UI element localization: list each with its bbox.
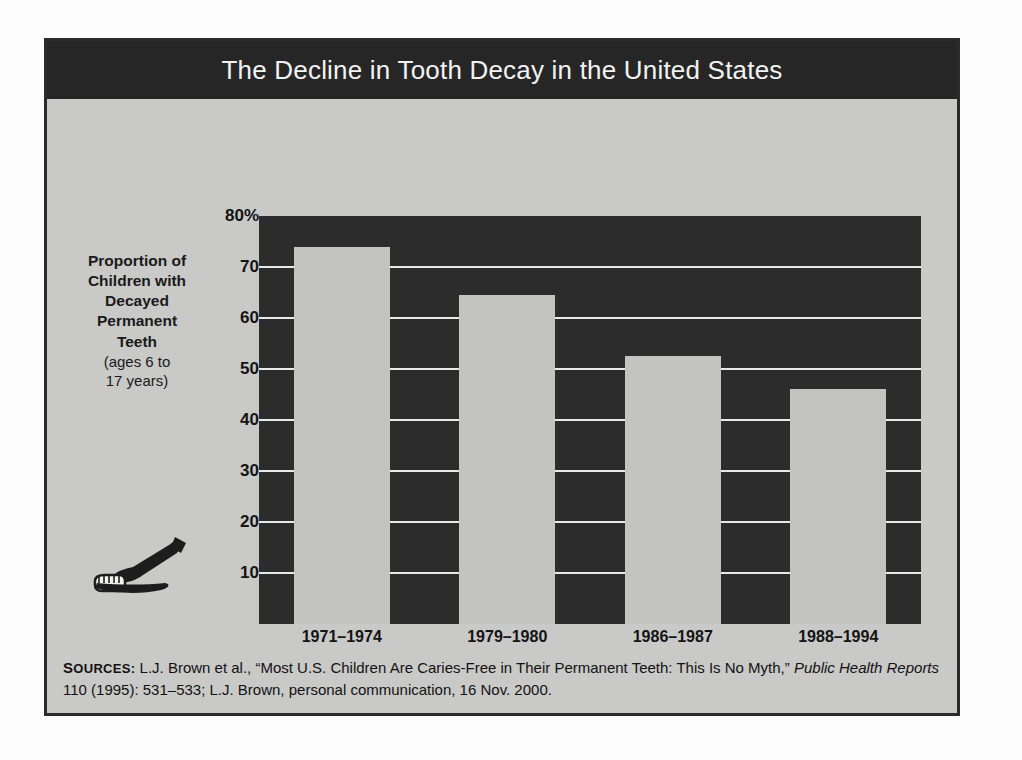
bar (625, 356, 721, 624)
x-tick-label: 1988–1994 (756, 628, 922, 646)
y-axis-label-line-1: Proportion of (57, 251, 217, 271)
plot-area (259, 216, 921, 624)
bar (790, 389, 886, 624)
y-tick-label: 80% (225, 206, 259, 226)
sources-text-part-1: L.J. Brown et al., “Most U.S. Children A… (135, 659, 794, 676)
chart-figure: The Decline in Tooth Decay in the United… (44, 38, 960, 716)
x-tick-label: 1979–1980 (425, 628, 591, 646)
bar (459, 295, 555, 624)
sources-label-cap: S (63, 659, 73, 676)
y-axis-label-line-7: 17 years) (57, 371, 217, 391)
x-tick-label: 1971–1974 (259, 628, 425, 646)
bar (294, 247, 390, 624)
y-tick-label: 10 (240, 563, 259, 583)
sources-label-rest: OURCES (73, 661, 130, 676)
y-axis-label-line-4: Permanent (57, 311, 217, 331)
y-axis-ticks: 80%70605040302010 (197, 99, 259, 661)
x-tick-label: 1986–1987 (590, 628, 756, 646)
y-tick-label: 50 (240, 359, 259, 379)
chart-title: The Decline in Tooth Decay in the United… (221, 55, 782, 86)
y-axis-label-line-5: Teeth (57, 332, 217, 352)
y-tick-label: 20 (240, 512, 259, 532)
sources-journal-title: Public Health Reports (794, 659, 939, 676)
chart-body: Proportion of Children with Decayed Perm… (47, 99, 957, 661)
y-axis-label-line-6: (ages 6 to (57, 352, 217, 372)
y-tick-label: 30 (240, 461, 259, 481)
y-axis-label: Proportion of Children with Decayed Perm… (57, 251, 217, 391)
y-tick-label: 70 (240, 257, 259, 277)
sources-label: SOURCES: (63, 661, 135, 676)
sources-footnote: SOURCES: L.J. Brown et al., “Most U.S. C… (47, 645, 957, 713)
toothpaste-and-toothbrush-icon (85, 531, 195, 601)
chart-title-band: The Decline in Tooth Decay in the United… (47, 41, 957, 99)
y-tick-label: 40 (240, 410, 259, 430)
y-tick-label: 60 (240, 308, 259, 328)
y-axis-label-line-2: Children with (57, 271, 217, 291)
sources-text-part-2: 110 (1995): 531–533; L.J. Brown, persona… (63, 681, 552, 698)
screenshot-root: The Decline in Tooth Decay in the United… (0, 0, 1022, 760)
y-axis-label-line-3: Decayed (57, 291, 217, 311)
